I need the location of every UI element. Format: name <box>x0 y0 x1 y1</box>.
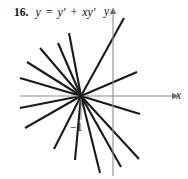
solution-line <box>69 33 81 96</box>
axis-group <box>20 8 179 177</box>
solution-family-plot <box>0 0 188 179</box>
common-intersection-point <box>78 93 83 98</box>
solution-line <box>81 72 137 96</box>
x-axis-arrow-icon <box>172 93 179 99</box>
solution-line <box>81 18 124 96</box>
solution-line <box>40 48 81 96</box>
textbook-figure-panel: 16. y = y′ + xy′ y x −1 <box>0 0 188 179</box>
solution-line <box>20 78 81 96</box>
y-axis-arrow-icon <box>110 8 116 15</box>
